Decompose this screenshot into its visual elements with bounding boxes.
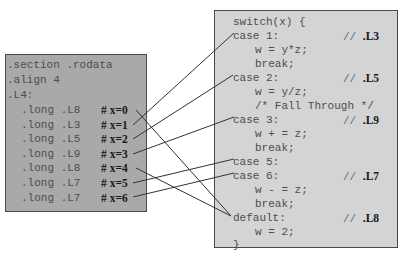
jump-entry-5: .long .L7 <box>21 177 80 190</box>
x-value-2: # x=2 <box>101 133 128 146</box>
code-case-2: case 2: <box>233 72 279 85</box>
jump-entry-6: .long .L7 <box>21 192 80 205</box>
jump-entry-1: .long .L3 <box>21 119 80 132</box>
code-stmt: w + = z; <box>255 128 308 141</box>
code-default: default: <box>233 212 286 225</box>
code-case-5: case 5: <box>233 156 279 169</box>
label-annotation-l8: // .L8 <box>343 212 379 225</box>
jump-entry-0: .long .L8 <box>21 104 80 117</box>
x-value-5: # x=5 <box>101 177 128 190</box>
code-close-brace: } <box>233 239 240 252</box>
switch-code-panel: switch(x) { case 1: w = y*z; break; case… <box>214 10 398 248</box>
jump-table-panel: .section .rodata .align 4 .L4: .long .L8… <box>5 54 147 212</box>
code-break: break; <box>255 58 295 71</box>
code-case-6: case 6: <box>233 170 279 183</box>
label-annotation-l3: // .L3 <box>343 30 379 43</box>
asm-line-section: .section .rodata <box>7 59 113 72</box>
x-value-6: # x=6 <box>101 192 128 205</box>
code-stmt: w = y/z; <box>255 86 308 99</box>
asm-line-align: .align 4 <box>7 74 60 87</box>
code-break: break; <box>255 142 295 155</box>
code-break: break; <box>255 198 295 211</box>
jump-entry-3: .long .L9 <box>21 148 80 161</box>
code-stmt: w = y*z; <box>255 44 308 57</box>
code-stmt: w = 2; <box>255 226 295 239</box>
label-annotation-l5: // .L5 <box>343 72 379 85</box>
label-annotation-l9: // .L9 <box>343 114 379 127</box>
code-stmt: w - = z; <box>255 184 308 197</box>
jump-entry-2: .long .L5 <box>21 133 80 146</box>
jump-entry-4: .long .L8 <box>21 162 80 175</box>
x-value-1: # x=1 <box>101 119 128 132</box>
asm-line-label-l4: .L4: <box>7 89 33 102</box>
code-case-1: case 1: <box>233 30 279 43</box>
label-annotation-l7: // .L7 <box>343 170 379 183</box>
x-value-4: # x=4 <box>101 162 128 175</box>
code-comment-fallthrough: /* Fall Through */ <box>255 100 374 113</box>
x-value-3: # x=3 <box>101 148 128 161</box>
code-case-3: case 3: <box>233 114 279 127</box>
code-switch-header: switch(x) { <box>233 16 306 29</box>
x-value-0: # x=0 <box>101 104 128 117</box>
